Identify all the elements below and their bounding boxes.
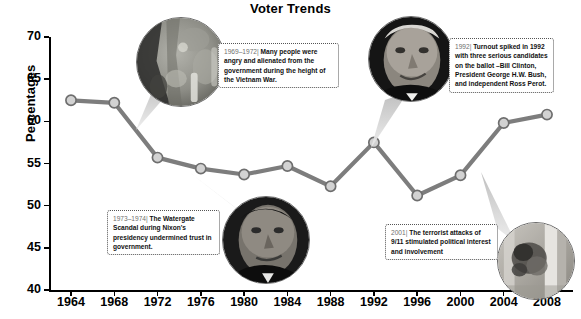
vietnam-war-photo-image [137, 18, 225, 106]
callout-year-sept11: 2001| [391, 229, 407, 236]
callout-year-vietnam: 1969–1972| [224, 48, 259, 55]
vietnam-war-photo [136, 17, 226, 107]
bill-clinton-photo-image [369, 17, 453, 101]
callout-box-vietnam: 1969–1972| Many people were angry and al… [218, 43, 339, 88]
september-11-photo [497, 222, 575, 300]
callout-year-watergate: 1973–1974| [113, 215, 148, 222]
september-11-photo-image [498, 223, 574, 299]
richard-nixon-photo-image [223, 197, 309, 283]
callout-box-clinton: 1992| Turnout spiked in 1992 with three … [449, 38, 554, 93]
richard-nixon-photo [222, 196, 310, 284]
callout-year-clinton: 1992| [455, 43, 471, 50]
callout-box-watergate: 1973–1974| The Watergate Scandal during … [107, 210, 220, 255]
callout-box-sept11: 2001| The terrorist attacks of 9/11 stim… [385, 224, 498, 260]
bill-clinton-photo [368, 16, 454, 102]
